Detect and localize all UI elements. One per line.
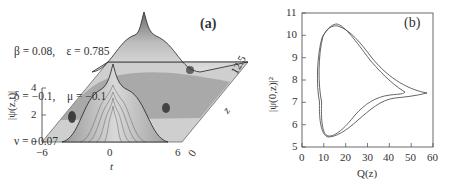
b-xtick-30: 30 <box>362 151 373 163</box>
b-ytick-11: 11 <box>286 6 297 18</box>
b-xtick-60: 60 <box>427 151 438 163</box>
b-xtick-20: 20 <box>340 151 351 163</box>
b-ytick-10: 10 <box>286 28 297 40</box>
loop-2 <box>317 26 427 137</box>
b-ytick-6: 6 <box>292 118 298 130</box>
loop-1 <box>319 24 405 136</box>
b-xtick-40: 40 <box>383 151 394 163</box>
b-ytick-9: 9 <box>292 51 298 63</box>
b-xtick-0: 0 <box>299 151 305 163</box>
b-ytick-7: 7 <box>292 95 298 107</box>
panel-b-label: (b) <box>404 15 420 31</box>
b-ytick-5: 5 <box>292 140 298 152</box>
b-xtick-10: 10 <box>318 151 329 163</box>
b-frame <box>302 13 433 147</box>
b-xlabel: Q(z) <box>357 167 377 179</box>
b-xtick-50: 50 <box>405 151 416 163</box>
b-ylabel: |ψ(0,z)|² <box>266 77 278 112</box>
b-ytick-8: 8 <box>292 73 298 85</box>
